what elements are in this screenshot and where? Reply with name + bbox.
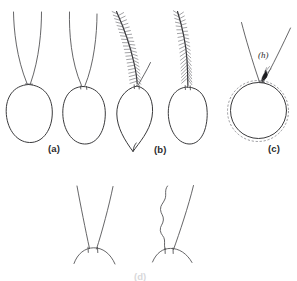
figure-3-group <box>112 12 152 152</box>
figure-3-body-outline <box>117 86 153 152</box>
figure-2-group <box>63 12 106 144</box>
figure-7-base-arch <box>153 248 193 262</box>
panel-label-d-partial: (d) <box>134 271 146 281</box>
figure-2-body-outline <box>63 87 106 145</box>
figure-canvas: (a) (b) (c) (h) (d) <box>0 0 297 281</box>
figure-3-plumose-shaft <box>117 12 138 85</box>
figure-5-hair-tuft <box>260 67 271 83</box>
panel-label-c: (c) <box>268 143 280 154</box>
figure-5-antenna-left <box>242 23 260 83</box>
figure-2-antenna-left <box>69 12 81 86</box>
figure-1-antenna-right <box>31 12 42 84</box>
figure-3-plume-barbs-left <box>112 12 137 84</box>
figure-6-group <box>74 186 115 264</box>
figure-5-outer-dashed-ring <box>228 81 289 142</box>
figure-3-antenna-secondary <box>139 63 151 85</box>
figure-7-group <box>153 186 194 263</box>
figure-7-antenna-straight <box>174 186 194 250</box>
figure-7-antenna-wavy <box>160 186 167 250</box>
panel-label-a: (a) <box>48 143 60 154</box>
figure-6-base-arch <box>74 248 115 264</box>
figure-1-body-outline <box>6 85 52 143</box>
figure-5-group <box>228 23 291 142</box>
figure-1-antenna-left <box>14 12 28 84</box>
figure-6-antenna-left <box>77 186 90 249</box>
part-label-h: (h) <box>258 50 269 60</box>
figure-2-antenna-right <box>85 14 97 86</box>
figure-plate: (a) (b) (c) (h) (d) <box>0 0 297 281</box>
panel-label-b: (b) <box>154 144 167 155</box>
figure-4-group <box>168 11 207 144</box>
figure-4-plumose-shaft <box>178 12 188 86</box>
figure-6-antenna-right <box>97 187 114 250</box>
figure-1-group <box>6 12 52 143</box>
figure-5-body-circle <box>231 83 287 139</box>
figure-4-body-outline <box>168 87 207 144</box>
